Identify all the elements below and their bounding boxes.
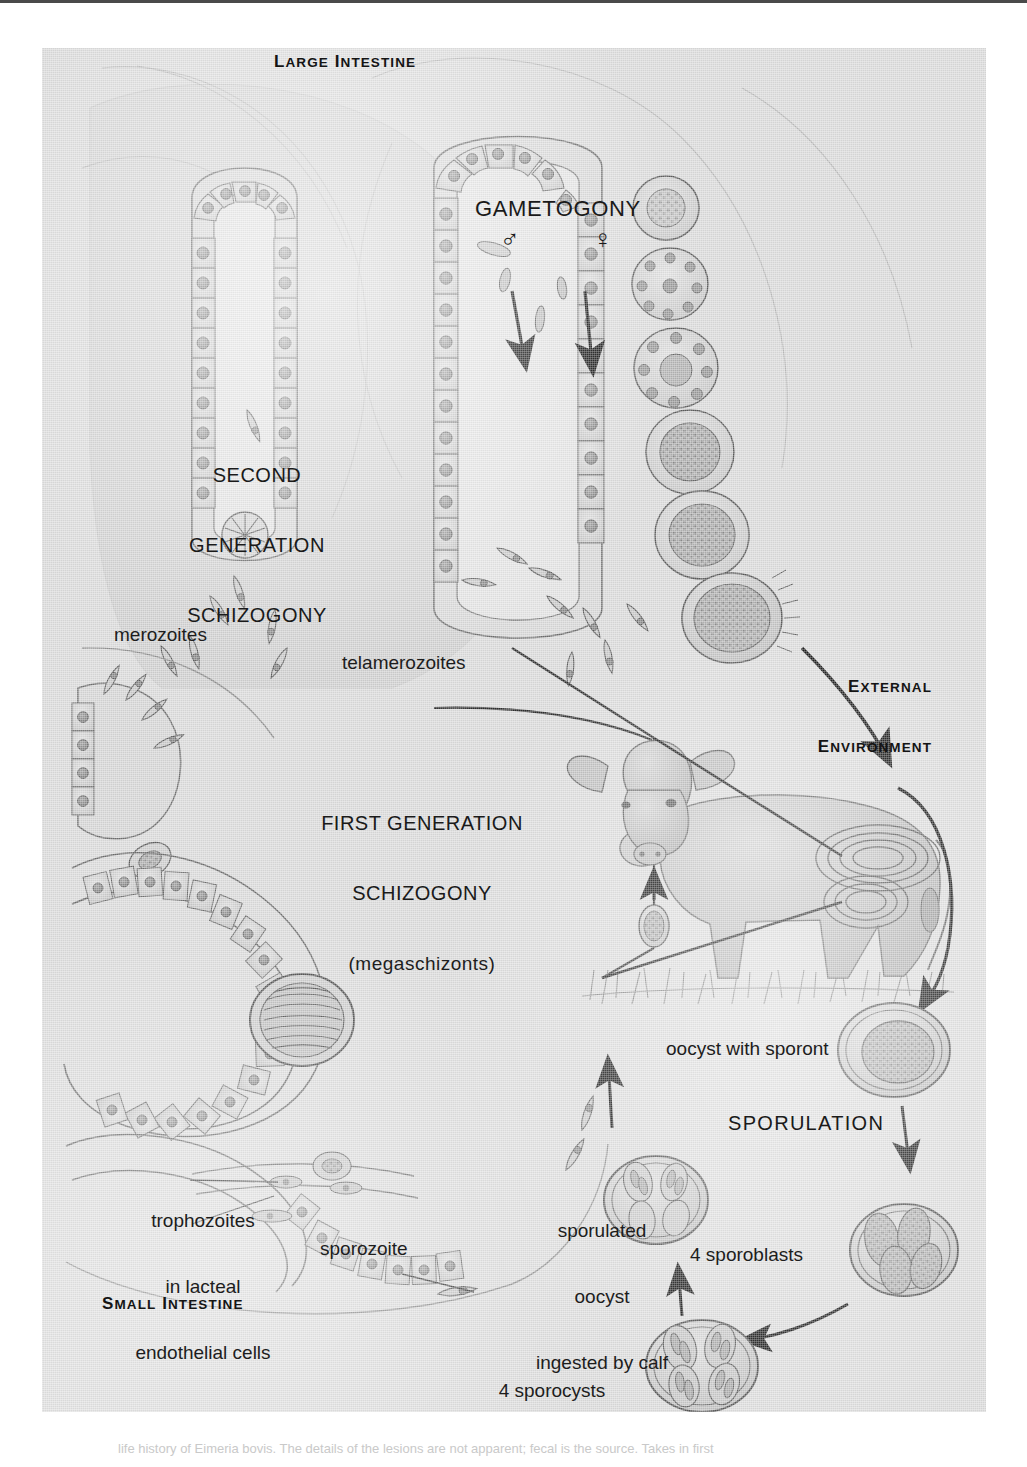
page-caption: life history of Eimeria bovis. The detai…: [0, 1443, 1027, 1467]
arrow-to-sporoblasts: [902, 1106, 910, 1170]
second-gen-line-1: SECOND: [142, 464, 372, 487]
released-sporozoites: [563, 1095, 597, 1172]
label-sporozoite: sporozoite: [320, 1238, 408, 1260]
label-large-intestine: LARGE INTESTINE: [274, 52, 416, 72]
page-caption-text: life history of Eimeria bovis. The detai…: [118, 1443, 918, 1458]
label-merozoites: merozoites: [114, 624, 207, 646]
male-symbol-icon: ♂: [500, 224, 520, 254]
sporulated-line-1: sporulated: [502, 1220, 702, 1242]
label-four-sporoblasts: 4 sporoblasts: [690, 1244, 803, 1266]
four-sporoblasts: [850, 1204, 958, 1296]
label-four-sporocysts: 4 sporocysts each with 2 sporozoites: [442, 1336, 662, 1412]
external-env-line-1: EXTERNAL: [642, 677, 932, 697]
female-symbol-icon: ♀: [593, 224, 613, 254]
first-gen-line-1: FIRST GENERATION: [282, 812, 562, 835]
label-first-generation-schizogony: FIRST GENERATION SCHIZOGONY (megaschizon…: [282, 766, 562, 1021]
sporulated-line-2: oocyst: [502, 1286, 702, 1308]
arrow-oocyst-to-calf: [608, 1058, 612, 1128]
life-cycle-figure-panel: LARGE INTESTINE GAMETOGONY ♂ ♀ SECOND GE…: [42, 48, 986, 1412]
oocyst-with-sporont: [838, 1003, 950, 1097]
label-sporulation: SPORULATION: [728, 1112, 884, 1135]
second-gen-line-2: GENERATION: [142, 534, 372, 557]
first-gen-line-2: SCHIZOGONY: [282, 882, 562, 905]
trophozoites-line-3: endothelial cells: [78, 1342, 328, 1364]
label-oocyst-with-sporont: oocyst with sporont: [666, 1038, 829, 1060]
gamont-series: [632, 176, 800, 663]
external-env-line-2: ENVIRONMENT: [642, 737, 932, 757]
page-top-rule: [0, 0, 1027, 3]
label-gametogony: GAMETOGONY: [475, 196, 641, 222]
label-external-environment: EXTERNAL ENVIRONMENT: [642, 638, 932, 796]
arrow-to-sporocysts: [742, 1304, 848, 1340]
label-telamerozoites: telamerozoites: [342, 652, 466, 674]
label-trophozoites: trophozoites in lacteal endothelial cell…: [78, 1166, 328, 1408]
first-gen-line-3: (megaschizonts): [282, 953, 562, 975]
label-small-intestine: SMALL INTESTINE: [102, 1294, 244, 1314]
sporocysts-line-1: 4 sporocysts: [442, 1380, 662, 1402]
trophozoites-line-1: trophozoites: [78, 1210, 328, 1232]
